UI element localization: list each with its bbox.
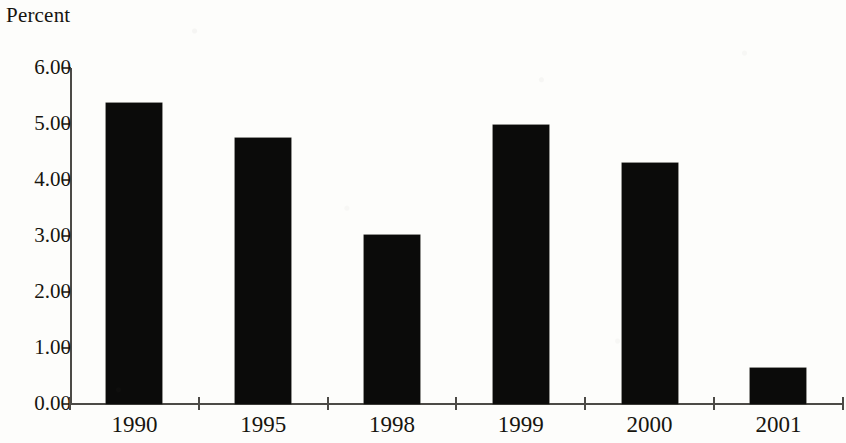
y-axis-tick-label: 3.00 <box>15 225 71 246</box>
x-axis-tick-mark <box>455 397 457 410</box>
x-axis-line <box>62 403 844 405</box>
y-axis-tick-label: 6.00 <box>15 57 71 78</box>
x-axis-tick-label: 1999 <box>456 410 585 440</box>
x-axis-tick-mark <box>198 397 200 410</box>
x-axis-tick-label: 2001 <box>714 410 843 440</box>
x-axis-tick-label: 1990 <box>70 410 199 440</box>
x-axis-tick-label: 1998 <box>328 410 457 440</box>
x-axis-tick-mark <box>69 397 71 410</box>
y-axis-tick-label: 4.00 <box>15 169 71 190</box>
x-axis-tick-mark <box>842 397 844 410</box>
x-axis-tick-label: 1995 <box>199 410 328 440</box>
bar <box>493 125 549 404</box>
bar <box>364 235 420 404</box>
chart-axis-title: Percent <box>6 2 70 28</box>
bar <box>622 163 678 404</box>
x-axis-tick-mark <box>584 397 586 410</box>
bar <box>106 103 162 404</box>
y-axis-tick-label: 5.00 <box>15 113 71 134</box>
x-axis-tick-label: 2000 <box>585 410 714 440</box>
y-axis-tick-label: 2.00 <box>15 281 71 302</box>
y-axis-tick-label: 0.00 <box>15 393 71 414</box>
bar-chart-figure: Percent 6.005.004.003.002.001.000.00 199… <box>0 0 846 443</box>
bar <box>235 138 291 404</box>
x-axis-tick-mark <box>327 397 329 410</box>
x-axis-tick-mark <box>713 397 715 410</box>
y-axis-tick-label: 1.00 <box>15 337 71 358</box>
bar <box>750 368 806 404</box>
